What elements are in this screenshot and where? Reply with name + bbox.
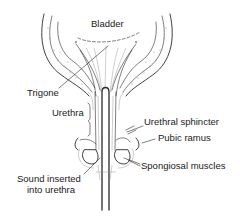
ureteral-orifice-left <box>75 41 77 43</box>
lower-urethra <box>96 165 116 180</box>
bladder-floor <box>78 32 140 42</box>
urethra-walls <box>88 92 124 150</box>
label-urethra: Urethra <box>52 107 84 118</box>
ureteral-orifice-right <box>135 41 137 43</box>
label-sound-line1: Sound inserted <box>17 173 81 184</box>
pubic-ramus-left <box>75 138 78 150</box>
spongiosal-leader <box>124 158 140 166</box>
label-urethral-sphincter: Urethral sphincter <box>144 116 219 127</box>
sound-leader <box>84 158 100 174</box>
label-spongiosal-muscles: Spongiosal muscles <box>141 160 226 171</box>
bladder-wall-right <box>120 14 172 96</box>
sphincter-region <box>80 126 136 144</box>
label-sound-line2: into urethra <box>27 184 75 195</box>
sphincter-leader <box>127 126 143 132</box>
urethral-sound <box>102 88 109 211</box>
trigone-fibers <box>76 44 136 96</box>
label-pubic-ramus: Pubic ramus <box>158 132 211 143</box>
label-trigone: Trigone <box>27 87 59 98</box>
urethra-bracket <box>88 103 90 136</box>
pubic-ramus-right <box>136 138 139 150</box>
pubic-ramus-leader <box>142 139 155 143</box>
label-bladder: Bladder <box>91 18 124 29</box>
bladder-wall-left <box>42 14 95 96</box>
spongiosal-muscles <box>79 148 134 168</box>
